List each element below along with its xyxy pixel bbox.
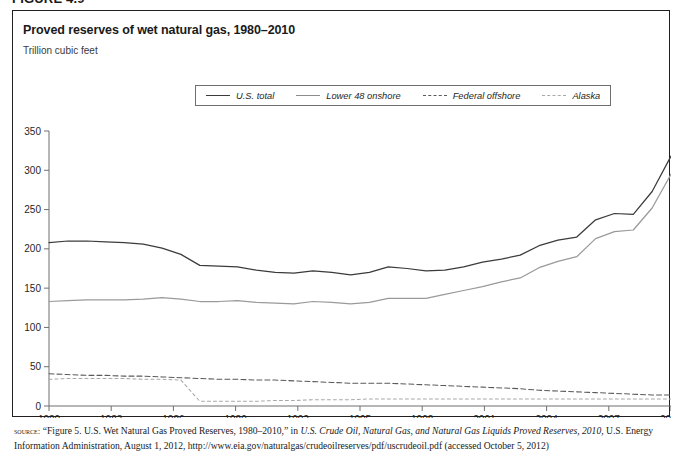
svg-text:0: 0 (35, 401, 41, 412)
svg-text:1983: 1983 (100, 414, 123, 418)
x-axis: 1980198319861989199219951998200120042007… (38, 406, 671, 418)
line-chart-svg: 050100150200250300350 198019831986198919… (13, 11, 671, 418)
y-axis: 050100150200250300350 (24, 126, 49, 412)
svg-text:2001: 2001 (473, 414, 496, 418)
svg-text:2007: 2007 (598, 414, 621, 418)
series-line-federal-offshore (49, 374, 671, 395)
svg-text:1986: 1986 (162, 414, 185, 418)
svg-text:1998: 1998 (411, 414, 434, 418)
svg-text:100: 100 (24, 322, 41, 333)
series-line-alaska (49, 379, 671, 402)
svg-text:1980: 1980 (38, 414, 61, 418)
svg-text:150: 150 (24, 283, 41, 294)
series-line-u-s-total (49, 156, 671, 275)
svg-text:250: 250 (24, 204, 41, 215)
figure-number-label: FIGURE 4.9 (12, 0, 85, 6)
data-series-group (49, 156, 671, 401)
svg-text:300: 300 (24, 165, 41, 176)
svg-text:1995: 1995 (349, 414, 372, 418)
chart-plot-area: 050100150200250300350 198019831986198919… (13, 11, 671, 418)
svg-text:50: 50 (30, 361, 42, 372)
svg-text:200: 200 (24, 243, 41, 254)
source-text-part1: “Figure 5. U.S. Wet Natural Gas Proved R… (40, 425, 300, 436)
svg-text:1989: 1989 (224, 414, 247, 418)
svg-text:2010: 2010 (660, 414, 671, 418)
figure-container: Proved reserves of wet natural gas, 1980… (12, 10, 670, 417)
source-label: source: (14, 426, 40, 436)
source-note: source: “Figure 5. U.S. Wet Natural Gas … (14, 424, 674, 452)
svg-text:2004: 2004 (535, 414, 558, 418)
source-publication-title: U.S. Crude Oil, Natural Gas, and Natural… (300, 425, 603, 436)
svg-text:1992: 1992 (287, 414, 310, 418)
series-line-lower-48-onshore (49, 174, 671, 304)
svg-text:350: 350 (24, 126, 41, 137)
